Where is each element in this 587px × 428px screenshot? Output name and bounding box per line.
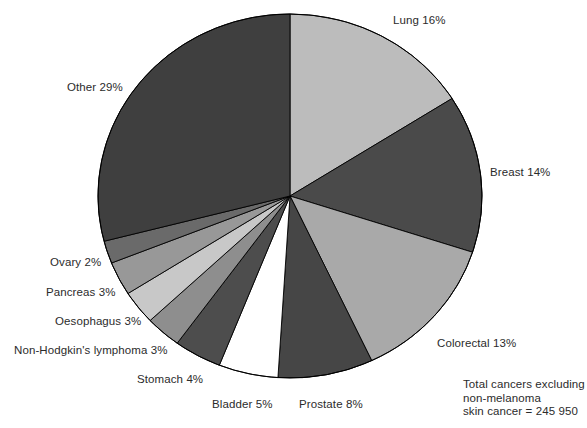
slice-label-other: Other 29% [67, 81, 123, 94]
pie-chart: Lung 16% Breast 14% Colorectal 13% Prost… [0, 0, 587, 428]
slice-label-stomach: Stomach 4% [137, 373, 203, 386]
pie-chart-svg [0, 0, 587, 428]
slice-label-prostate: Prostate 8% [299, 398, 363, 411]
slice-label-colorectal: Colorectal 13% [437, 337, 516, 350]
slice-label-breast: Breast 14% [490, 166, 550, 179]
chart-footnote: Total cancers excluding non-melanoma ski… [463, 378, 585, 419]
pie-slices-group [98, 14, 482, 378]
slice-label-non-hodgkins-lymphoma: Non-Hodgkin's lymphoma 3% [14, 344, 168, 357]
slice-label-oesophagus: Oesophagus 3% [55, 315, 141, 328]
slice-label-bladder: Bladder 5% [212, 398, 272, 411]
slice-label-pancreas: Pancreas 3% [46, 286, 116, 299]
slice-label-lung: Lung 16% [393, 14, 446, 27]
slice-label-ovary: Ovary 2% [50, 256, 101, 269]
